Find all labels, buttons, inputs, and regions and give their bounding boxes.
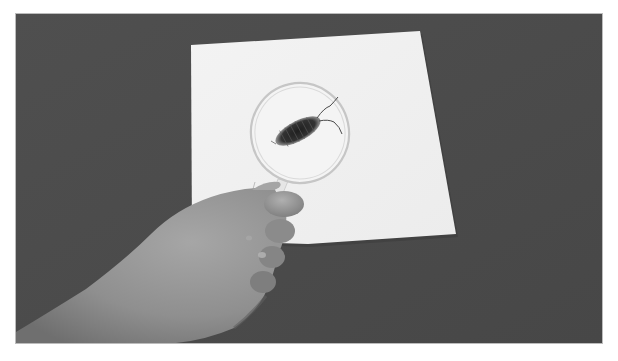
photo	[16, 14, 602, 343]
photo-illustration	[16, 14, 602, 343]
